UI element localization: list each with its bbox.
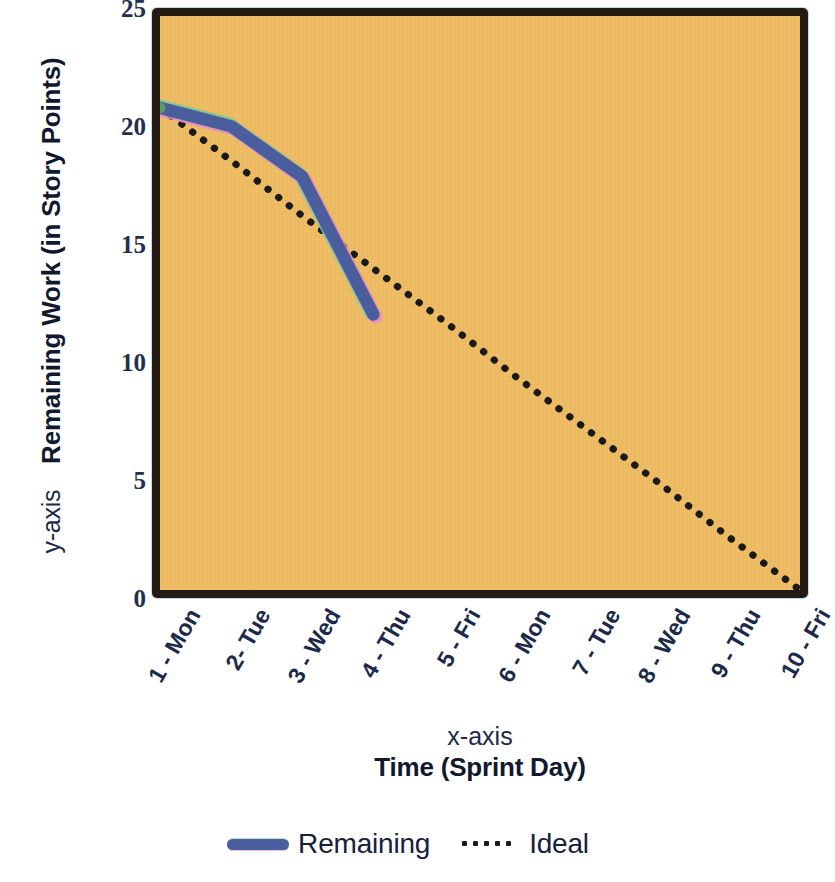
y-axis-title: Remaining Work (in Story Points) [37, 57, 68, 463]
y-axis-tick-labels: 25 20 15 10 5 0 [96, 0, 146, 610]
legend-item-remaining[interactable]: Remaining [227, 828, 430, 860]
x-axis-label-prefix: x-axis [152, 722, 808, 751]
x-axis-title: Time (Sprint Day) [152, 751, 808, 784]
y-tick-label: 25 [98, 0, 146, 23]
y-tick-label: 15 [98, 231, 146, 259]
y-axis-title-group: y-axis Remaining Work (in Story Points) [0, 0, 104, 610]
x-axis-title-group: x-axis Time (Sprint Day) [152, 722, 808, 783]
x-tick-label: 10 - Fri [775, 604, 835, 683]
y-axis-label-prefix: y-axis [38, 489, 67, 552]
chart-svg [160, 16, 800, 590]
dotted-line-swatch-icon [460, 838, 520, 850]
plot-area [152, 8, 808, 598]
y-tick-label: 5 [98, 467, 146, 495]
legend-item-ideal[interactable]: Ideal [460, 828, 589, 860]
chart-legend: Remaining Ideal [0, 828, 816, 860]
x-axis-tick-labels: 1 - Mon 2- Tue 3 - Wed 4 - Thu 5 - Fri 6… [152, 600, 808, 712]
solid-line-swatch-icon [227, 839, 289, 850]
legend-label: Ideal [529, 828, 589, 860]
legend-label: Remaining [298, 828, 430, 860]
y-tick-label: 10 [98, 349, 146, 377]
y-tick-label: 20 [98, 113, 146, 141]
series-ideal [160, 108, 800, 590]
x-tick: 10 - Fri [748, 600, 835, 712]
